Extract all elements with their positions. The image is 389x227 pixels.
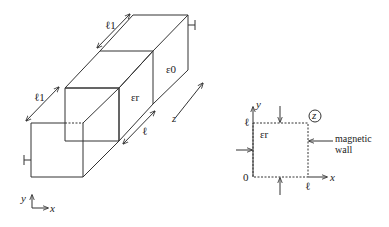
cs-z-label: z bbox=[311, 109, 317, 121]
front-box bbox=[31, 123, 83, 177]
cross-section: z y x 0 ℓ ℓ εr magnetic wall bbox=[236, 98, 372, 195]
magnetic-wall-label: magnetic bbox=[335, 133, 372, 144]
inner-permittivity-label: εr bbox=[131, 91, 140, 103]
cs-x-label: x bbox=[329, 171, 335, 183]
cs-permittivity-label: εr bbox=[260, 128, 269, 140]
outer-bottom-edge bbox=[153, 70, 188, 104]
front-box-bottom-edge bbox=[83, 141, 119, 177]
ground-icon-left bbox=[24, 155, 31, 165]
core-edge bbox=[83, 88, 119, 123]
cs-y-label: y bbox=[255, 98, 261, 110]
dim-label-top: ℓ1 bbox=[105, 19, 116, 31]
dim-label-inner: ℓ bbox=[142, 125, 147, 137]
dim-label-left: ℓ1 bbox=[34, 91, 45, 103]
cs-origin-label: 0 bbox=[243, 171, 249, 183]
z-axis-arrow bbox=[176, 83, 203, 117]
z-axis-label: z bbox=[171, 112, 177, 124]
xy-axis-indicator: y x bbox=[20, 192, 55, 214]
waveguide-3d: ℓ1 ℓ1 ℓ ε0 εr z y x bbox=[20, 14, 203, 214]
dim-arrow-inner bbox=[123, 111, 155, 144]
y-axis-label: y bbox=[20, 192, 26, 204]
diagram-canvas: ℓ1 ℓ1 ℓ ε0 εr z y x z y x 0 ℓ ℓ εr mag bbox=[0, 0, 389, 227]
cs-tick-y: ℓ bbox=[244, 116, 249, 128]
magnetic-wall-label-2: wall bbox=[335, 144, 352, 155]
cs-tick-x: ℓ bbox=[305, 180, 310, 192]
outer-permittivity-label: ε0 bbox=[166, 63, 177, 75]
x-axis-label: x bbox=[49, 202, 55, 214]
core-top-face bbox=[65, 51, 153, 88]
ground-icon-right bbox=[188, 20, 195, 30]
